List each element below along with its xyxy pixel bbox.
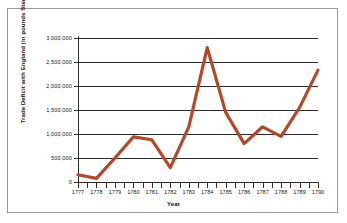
x-axis-title: Year — [8, 200, 339, 207]
x-tick-mark-minor — [87, 183, 88, 188]
x-tick-mark-minor — [253, 183, 254, 188]
x-tick-mark-minor — [106, 183, 107, 188]
x-tick-label: 1786 — [238, 189, 250, 195]
x-tick-mark-minor — [272, 183, 273, 188]
x-tick-label: 1788 — [275, 189, 287, 195]
x-tick-mark — [96, 183, 97, 188]
x-tick-mark-minor — [309, 183, 310, 188]
x-tick-mark — [318, 183, 319, 188]
y-tick-label: 1,000,000 — [46, 131, 72, 137]
x-tick-label: 1789 — [293, 189, 305, 195]
x-tick-mark-minor — [198, 183, 199, 188]
x-tick-label: 1787 — [256, 189, 268, 195]
chart-page: Trade Deficit with England (in pounds St… — [0, 0, 347, 223]
y-tick-label: 2,000,000 — [46, 83, 72, 89]
chart-frame: Trade Deficit with England (in pounds St… — [7, 8, 338, 213]
y-tick-label: 1,500,000 — [46, 107, 72, 113]
x-tick-mark — [226, 183, 227, 188]
x-tick-mark-minor — [216, 183, 217, 188]
x-tick-label: 1777 — [72, 189, 84, 195]
x-tick-label: 1782 — [164, 189, 176, 195]
x-tick-mark — [281, 183, 282, 188]
y-tick-label: 3,000,000 — [46, 35, 72, 41]
x-tick-mark — [78, 183, 79, 188]
x-tick-label: 1783 — [183, 189, 195, 195]
x-tick-label: 1779 — [109, 189, 121, 195]
x-tick-mark-minor — [290, 183, 291, 188]
x-tick-mark-minor — [180, 183, 181, 188]
y-tick-label: 0 — [69, 179, 72, 185]
x-tick-mark — [152, 183, 153, 188]
y-tick-label: 2,500,000 — [46, 59, 72, 65]
x-tick-label: 1778 — [90, 189, 102, 195]
x-tick-mark — [263, 183, 264, 188]
x-tick-mark — [300, 183, 301, 188]
x-tick-mark — [207, 183, 208, 188]
x-tick-label: 1790 — [312, 189, 324, 195]
data-series-line — [78, 38, 319, 183]
x-tick-mark-minor — [235, 183, 236, 188]
y-tick-label: 500,000 — [51, 155, 72, 161]
x-tick-label: 1780 — [127, 189, 139, 195]
x-tick-mark — [189, 183, 190, 188]
x-tick-mark-minor — [124, 183, 125, 188]
x-tick-mark — [133, 183, 134, 188]
y-axis-labels: 3,000,000 2,500,000 2,000,000 1,500,000 … — [8, 9, 72, 214]
x-tick-label: 1785 — [219, 189, 231, 195]
x-tick-mark-minor — [161, 183, 162, 188]
x-tick-mark — [170, 183, 171, 188]
x-tick-label: 1781 — [146, 189, 158, 195]
x-tick-mark — [244, 183, 245, 188]
x-tick-label: 1784 — [201, 189, 213, 195]
x-tick-mark-minor — [143, 183, 144, 188]
x-tick-mark — [115, 183, 116, 188]
